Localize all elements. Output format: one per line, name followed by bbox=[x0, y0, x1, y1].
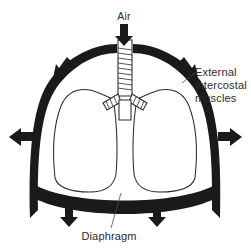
diaphragm-label: Diaphragm bbox=[81, 230, 136, 242]
external-intercostal-label-line2: intercostal bbox=[195, 79, 247, 91]
diagram-canvas: Air External intercostal muscles Diaphra… bbox=[0, 0, 251, 252]
carina-stem bbox=[119, 100, 131, 120]
trachea bbox=[118, 40, 132, 96]
external-intercostal-label-line1: External bbox=[195, 66, 237, 78]
air-label: Air bbox=[117, 10, 131, 22]
external-intercostal-label-line3: muscles bbox=[195, 92, 237, 104]
respiration-diagram: Air External intercostal muscles Diaphra… bbox=[0, 0, 251, 252]
